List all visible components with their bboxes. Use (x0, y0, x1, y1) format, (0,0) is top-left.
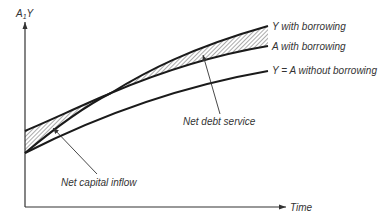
curve-y-without-borrowing (25, 71, 268, 153)
label-a-with-borrowing: A with borrowing (271, 41, 346, 52)
y-axis-label: A1Y (15, 8, 35, 20)
net-capital-inflow-arrow (53, 128, 97, 174)
label-y-with-borrowing: Y with borrowing (272, 21, 346, 32)
borrowing-diagram: A1Y Time Y with borrowing A with borrowi… (0, 0, 391, 222)
x-axis-label: Time (290, 202, 313, 213)
label-net-debt-service: Net debt service (183, 116, 256, 127)
label-y-equals-a-without-borrowing: Y = A without borrowing (272, 65, 377, 76)
label-net-capital-inflow: Net capital inflow (61, 177, 137, 188)
